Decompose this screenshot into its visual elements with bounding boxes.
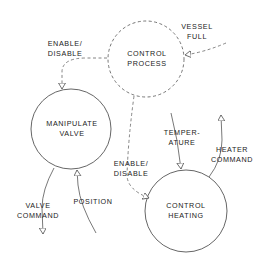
process-control-heating[interactable]: CONTROL HEATING <box>145 170 227 252</box>
enable-disable-heating-arrow <box>127 96 149 198</box>
manipulate-valve-label-2: VALVE <box>59 129 84 138</box>
enable-disable-valve-label-1: ENABLE/ <box>48 39 83 48</box>
process-manipulate-valve[interactable]: MANIPULATE VALVE <box>31 89 111 169</box>
position-label: POSITION <box>73 197 112 206</box>
valve-command-label-1: VALVE <box>25 201 50 210</box>
flow-enable-disable-valve[interactable]: ENABLE/ DISABLE <box>48 39 107 89</box>
flow-position[interactable]: POSITION <box>73 170 112 233</box>
process-control-process[interactable]: CONTROL PROCESS <box>108 21 184 97</box>
control-heating-label-1: CONTROL <box>166 201 205 210</box>
vessel-full-label-1: VESSEL <box>181 22 213 31</box>
vessel-full-arrow <box>185 43 226 55</box>
flow-vessel-full[interactable]: VESSEL FULL <box>181 22 226 55</box>
temperature-label-2: ATURE <box>169 138 196 147</box>
vessel-full-label-2: FULL <box>187 32 207 41</box>
temperature-label-1: TEMPER- <box>164 128 201 137</box>
enable-disable-valve-label-2: DISABLE <box>48 49 83 58</box>
flow-enable-disable-heating[interactable]: ENABLE/ DISABLE <box>114 96 149 198</box>
enable-disable-heating-label-1: ENABLE/ <box>114 159 149 168</box>
heater-command-label-2: COMMAND <box>211 155 253 164</box>
diagram-canvas: CONTROL PROCESS MANIPULATE VALVE CONTROL… <box>0 0 270 263</box>
enable-disable-heating-label-2: DISABLE <box>114 169 149 178</box>
control-process-label-2: PROCESS <box>127 59 166 68</box>
heater-command-label-1: HEATER <box>216 145 248 154</box>
flow-heater-command[interactable]: HEATER COMMAND <box>209 115 253 177</box>
enable-disable-valve-arrow <box>62 58 107 89</box>
manipulate-valve-label-1: MANIPULATE <box>46 119 97 128</box>
control-process-label-1: CONTROL <box>127 49 166 58</box>
valve-command-label-2: COMMAND <box>17 211 59 220</box>
control-heating-label-2: HEATING <box>168 211 204 220</box>
flow-temperature[interactable]: TEMPER- ATURE <box>164 113 201 169</box>
flow-valve-command[interactable]: VALVE COMMAND <box>17 168 59 234</box>
